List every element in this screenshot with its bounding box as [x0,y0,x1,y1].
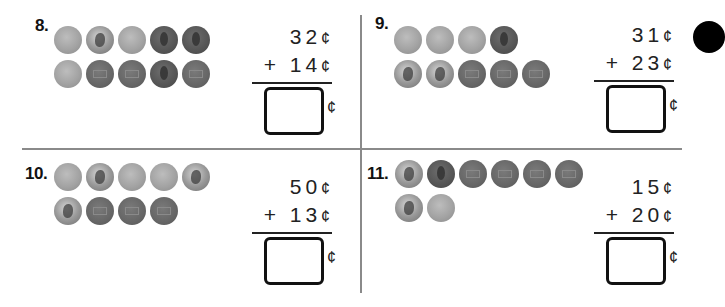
penny-tail-coin-icon [490,60,518,88]
problem-number: 8. [35,16,48,36]
penny-tail-coin-icon [458,60,486,88]
addition-problem: 15¢ + 20¢ ¢ [594,174,674,282]
addend-1-value: 31 [632,23,663,46]
dime-coin-icon [394,60,422,88]
penny-tail-coin-icon [182,60,210,88]
dime-coin-icon [182,163,210,191]
problem-number: 10. [25,164,47,184]
answer-box[interactable] [264,87,324,135]
answer-box[interactable] [606,85,666,133]
addend-2: + 23¢ [594,50,674,78]
coin-row [54,26,210,54]
penny-tail-coin-icon [523,160,551,188]
dime-coin-icon [86,26,114,54]
addend-2-value: + 23 [606,51,663,74]
coin-row [394,60,550,88]
answer-row: ¢ [594,82,674,130]
addition-problem: 31¢ + 23¢ ¢ [594,22,674,130]
problem-number: 11. [367,164,388,184]
coin-group [54,26,210,94]
coin-row [395,194,583,222]
cent-symbol: ¢ [321,180,330,197]
answer-box[interactable] [264,237,324,285]
dime-coin-icon [86,163,114,191]
penny-head-coin-icon [182,26,210,54]
penny-tail-coin-icon [150,197,178,225]
addend-2: + 13¢ [252,202,332,230]
cent-symbol: ¢ [321,30,330,47]
cent-symbol: ¢ [321,58,330,75]
answer-row: ¢ [252,234,332,282]
dime-coin-icon [54,197,82,225]
cent-symbol: ¢ [321,208,330,225]
coin-group [394,26,550,94]
dime-coin-icon [395,160,423,188]
cent-symbol: ¢ [663,208,672,225]
addend-2: + 20¢ [594,202,674,230]
answer-box[interactable] [606,237,666,285]
dime-coin-icon [426,60,454,88]
addend-2-value: + 14 [264,53,321,76]
addend-1: 32¢ [252,24,332,52]
cent-symbol: ¢ [663,180,672,197]
penny-tail-coin-icon [555,160,583,188]
addend-2-value: + 20 [606,203,663,226]
addend-2-value: + 13 [264,203,321,226]
addend-1-value: 15 [632,175,663,198]
cent-symbol: ¢ [327,99,336,117]
penny-head-coin-icon [150,26,178,54]
penny-head-coin-icon [150,60,178,88]
addend-1-value: 50 [290,175,321,198]
addend-1: 50¢ [252,174,332,202]
nickel-coin-icon [118,26,146,54]
nickel-coin-icon [426,26,454,54]
addend-1: 31¢ [594,22,674,50]
coin-row [54,163,210,191]
cent-symbol: ¢ [663,28,672,45]
penny-tail-coin-icon [522,60,550,88]
dime-coin-icon [395,194,423,222]
penny-tail-coin-icon [491,160,519,188]
answer-row: ¢ [252,84,332,132]
addition-problem: 32¢ + 14¢ ¢ [252,24,332,132]
problem-9: 9. 31¢ + 23¢ ¢ [361,0,701,140]
nickel-coin-icon [118,163,146,191]
problem-10: 10. 50¢ + 13¢ ¢ [0,150,340,290]
problem-8: 8. 32¢ + 14¢ ¢ [0,0,340,140]
cent-symbol: ¢ [327,249,336,267]
penny-tail-coin-icon [118,60,146,88]
coin-row [54,60,210,88]
coin-row [395,160,583,188]
coin-group [54,163,210,231]
penny-tail-coin-icon [86,60,114,88]
addition-problem: 50¢ + 13¢ ¢ [252,174,332,282]
penny-head-coin-icon [427,160,455,188]
nickel-coin-icon [54,163,82,191]
answer-row: ¢ [594,234,674,282]
nickel-coin-icon [150,163,178,191]
cent-symbol: ¢ [663,56,672,73]
nickel-coin-icon [394,26,422,54]
coin-group [395,160,583,228]
addend-1-value: 32 [290,25,321,48]
nickel-coin-icon [54,60,82,88]
coin-row [54,197,210,225]
nickel-coin-icon [427,194,455,222]
penny-head-coin-icon [490,26,518,54]
cent-symbol: ¢ [669,97,678,115]
nickel-coin-icon [458,26,486,54]
penny-tail-coin-icon [86,197,114,225]
addend-2: + 14¢ [252,52,332,80]
problem-number: 9. [375,14,388,34]
addend-1: 15¢ [594,174,674,202]
coin-row [394,26,550,54]
nickel-coin-icon [54,26,82,54]
penny-tail-coin-icon [118,197,146,225]
cent-symbol: ¢ [669,249,678,267]
problem-11: 11. 15¢ + 20¢ ¢ [361,150,701,290]
penny-tail-coin-icon [459,160,487,188]
